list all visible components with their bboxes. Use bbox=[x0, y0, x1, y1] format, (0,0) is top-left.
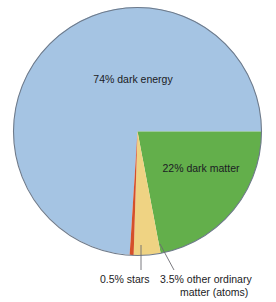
caption-other-ordinary-matter-line1: 3.5% other ordinary bbox=[160, 273, 252, 285]
caption-other-ordinary-matter-line2: matter (atoms) bbox=[180, 286, 248, 298]
pie-chart-figure: 74% dark energy 22% dark matter 0.5% sta… bbox=[0, 0, 276, 302]
caption-stars: 0.5% stars bbox=[100, 273, 150, 285]
slice-label-dark-matter: 22% dark matter bbox=[162, 162, 240, 174]
slice-label-dark-energy: 74% dark energy bbox=[93, 73, 173, 85]
